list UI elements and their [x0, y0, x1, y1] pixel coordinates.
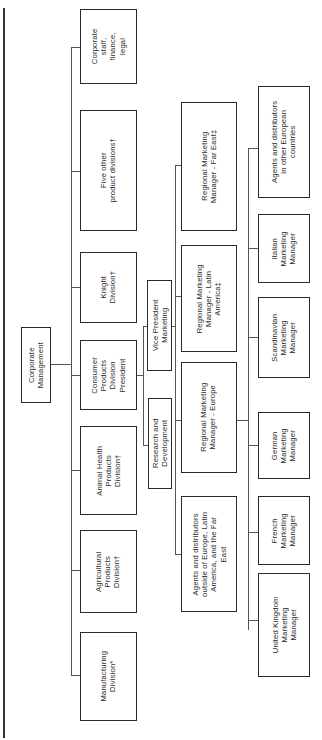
agents-outside-label: Agents and distributors outside of Europ…: [191, 511, 228, 596]
german-marketing-box: German Marketing Manager: [258, 412, 310, 479]
italian-marketing-box: Italian Marketing Manager: [258, 214, 310, 283]
manufacturing-division-label: Manufacturing Division*: [99, 651, 117, 702]
corporate-staff-box: Corporate staff, finance, legal: [80, 9, 137, 84]
connector: [71, 287, 80, 288]
connector: [248, 532, 258, 533]
five-other-divisions-label: Five other product divisions†: [99, 138, 117, 202]
vp-marketing-box: Vice President Marketing: [147, 280, 172, 371]
research-development-label: Research and Development: [151, 419, 169, 469]
agents-outside-box: Agents and distributors outside of Europ…: [181, 496, 237, 612]
regional-latin-america-label: Regional Marketing Manager - Latin Ameri…: [195, 264, 223, 333]
animal-health-box: Animal Health Products Division†: [80, 426, 137, 515]
root-connector: [51, 364, 72, 365]
manufacturing-division-box: Manufacturing Division*: [80, 632, 137, 721]
connector: [71, 375, 80, 376]
italian-marketing-label: Italian Marketing Manager: [270, 231, 298, 266]
agents-other-european-box: Agents and distributors in other Europea…: [258, 86, 310, 198]
connector: [71, 47, 80, 48]
uk-marketing-label: United Kingdom Marketing Manager: [270, 597, 298, 654]
scandinavian-marketing-box: Scandinavian Marketing Manager: [258, 297, 310, 378]
connector: [248, 148, 258, 149]
german-marketing-label: German Marketing Manager: [270, 428, 298, 463]
knight-division-label: Knight Division†: [99, 271, 117, 304]
org-chart: Corporate Management Corporate staff, fi…: [0, 0, 322, 740]
consumer-products-label: Consumer Products Division President: [90, 357, 127, 394]
page-rule: [3, 8, 5, 738]
five-other-divisions-box: Five other product divisions†: [80, 110, 137, 231]
connector: [71, 470, 80, 471]
animal-health-label: Animal Health Products Division†: [95, 446, 123, 496]
connector: [71, 675, 80, 676]
french-marketing-box: French Marketing Manager: [258, 496, 310, 565]
connector: [71, 171, 80, 172]
connector: [248, 337, 258, 338]
corporate-management-label: Corporate Management: [27, 342, 45, 388]
division-spine: [71, 47, 72, 676]
regional-spine: [175, 165, 176, 555]
corporate-management-box: Corporate Management: [21, 327, 51, 403]
knight-division-box: Knight Division†: [80, 252, 137, 323]
regional-latin-america-box: Regional Marketing Manager - Latin Ameri…: [181, 245, 237, 352]
connector: [248, 620, 258, 621]
regional-europe-box: Regional Marketing Manager - Europe: [181, 362, 237, 473]
uk-marketing-box: United Kingdom Marketing Manager: [258, 573, 310, 677]
connector: [248, 445, 258, 446]
regional-far-east-box: Regional Marketing Manager - Far East‡: [181, 102, 237, 231]
europe-spine: [248, 148, 249, 630]
consumer-products-box: Consumer Products Division President: [80, 340, 137, 410]
europe-connector: [237, 420, 248, 421]
connector: [248, 248, 258, 249]
connector: [71, 570, 80, 571]
corporate-staff-label: Corporate staff, finance, legal: [90, 29, 127, 65]
vp-marketing-label: Vice President Marketing: [150, 300, 168, 352]
research-development-box: Research and Development: [148, 398, 172, 489]
consumer-spine: [143, 326, 144, 446]
regional-europe-label: Regional Marketing Manager - Europe: [200, 383, 218, 452]
scandinavian-marketing-label: Scandinavian Marketing Manager: [270, 313, 298, 361]
agricultural-products-box: Agricultural Products Division†: [80, 530, 137, 613]
agents-other-european-label: Agents and distributors in other Europea…: [270, 101, 298, 183]
agricultural-products-label: Agricultural Products Division†: [95, 551, 123, 591]
french-marketing-label: French Marketing Manager: [270, 513, 298, 548]
regional-far-east-label: Regional Marketing Manager - Far East‡: [200, 130, 218, 203]
